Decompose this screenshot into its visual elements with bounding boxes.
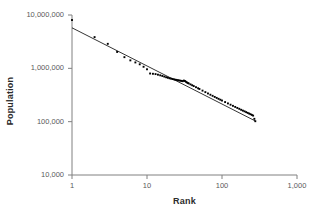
data-point (116, 51, 118, 53)
data-point (129, 59, 131, 61)
data-point (193, 85, 195, 87)
y-axis-tick-label-2: 1,000,000 (0, 63, 64, 72)
data-point (107, 43, 109, 45)
data-point (146, 68, 148, 70)
data-point (218, 98, 220, 100)
data-point (240, 109, 242, 111)
x-axis-ticks (72, 175, 297, 179)
y-axis-title: Population (5, 64, 15, 138)
data-point (234, 106, 236, 108)
rank-size-chart: Population Rank 10,000100,0001,000,00010… (0, 0, 318, 213)
data-point (232, 105, 234, 107)
data-point (219, 99, 221, 101)
data-point (236, 107, 238, 109)
data-point (216, 97, 218, 99)
x-axis-tick-label-1: 10 (122, 181, 172, 190)
data-point (94, 36, 96, 38)
data-point (167, 77, 169, 79)
data-point (161, 75, 163, 77)
x-axis-tick-label-0: 1 (47, 181, 97, 190)
data-point (123, 56, 125, 58)
data-point (157, 74, 159, 76)
data-point (134, 61, 136, 63)
data-point (198, 88, 200, 90)
data-point (165, 76, 167, 78)
x-axis-title: Rank (72, 196, 297, 206)
data-point (238, 108, 240, 110)
data-point (204, 91, 206, 93)
data-point (139, 63, 141, 65)
data-point (224, 101, 226, 103)
data-point (227, 102, 229, 104)
data-point (190, 83, 192, 85)
data-point (207, 93, 209, 95)
data-point (221, 100, 223, 102)
trendline-segment (72, 28, 255, 121)
y-axis-tick-label-1: 100,000 (0, 117, 64, 126)
trendline (72, 28, 255, 121)
data-point (252, 115, 254, 117)
data-point (163, 76, 165, 78)
data-point (195, 86, 197, 88)
y-axis-tick-label-3: 10,000,000 (0, 10, 64, 19)
data-point (230, 104, 232, 106)
x-axis-tick-label-2: 100 (197, 181, 247, 190)
data-point (188, 83, 190, 85)
data-point (242, 110, 244, 112)
data-point (212, 95, 214, 97)
y-axis-tick-label-0: 10,000 (0, 170, 64, 179)
data-point (152, 73, 154, 75)
data-point-markers (71, 19, 256, 122)
data-point (71, 19, 73, 21)
data-point (202, 90, 204, 92)
data-point (253, 118, 255, 120)
data-point (155, 73, 157, 75)
data-point (159, 74, 161, 76)
data-point (214, 96, 216, 98)
y-axis-ticks (68, 15, 72, 175)
data-point (149, 73, 151, 75)
data-point (209, 94, 211, 96)
data-point (254, 120, 256, 122)
x-axis-tick-label-3: 1,000 (272, 181, 318, 190)
data-point (143, 66, 145, 68)
